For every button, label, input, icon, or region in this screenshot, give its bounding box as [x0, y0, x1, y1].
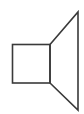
icon-canvas [0, 0, 84, 114]
speaker-icon [0, 0, 84, 114]
